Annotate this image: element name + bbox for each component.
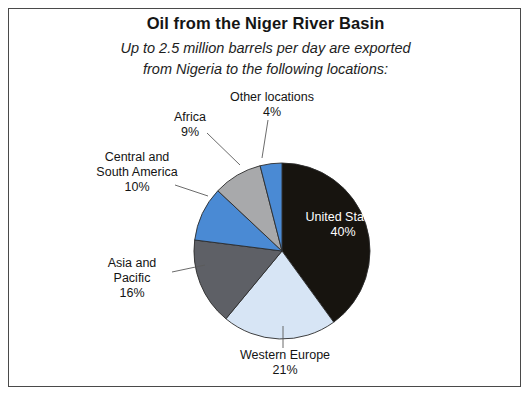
slice-label-central-south-america-line-2: South America [78, 165, 196, 180]
slice-label-africa-pct: 9% [150, 125, 230, 140]
slice-label-africa-name: Africa [174, 110, 206, 124]
slice-label-other-locations-pct: 4% [222, 105, 322, 120]
slice-label-asia-pacific-line-2: Pacific [78, 271, 186, 286]
slice-label-asia-pacific-pct: 16% [78, 286, 186, 301]
slice-label-central-south-america: Central and South America 10% [78, 150, 196, 195]
pie-slice-group [194, 163, 370, 339]
slice-label-central-south-america-pct: 10% [78, 180, 196, 195]
leader-line-other-locations [262, 120, 268, 158]
slice-label-western-europe-pct: 21% [200, 363, 370, 378]
figure-container: Oil from the Niger River Basin Up to 2.5… [0, 0, 531, 397]
slice-label-asia-pacific: Asia and Pacific 16% [78, 256, 186, 301]
slice-label-united-states-pct: 40% [288, 225, 398, 240]
slice-label-asia-pacific-line-1: Asia and [108, 256, 157, 270]
slice-label-western-europe: Western Europe 21% [200, 348, 370, 378]
pie-chart [0, 0, 531, 397]
slice-label-other-locations: Other locations 4% [222, 90, 322, 120]
slice-label-africa: Africa 9% [150, 110, 230, 140]
slice-label-united-states-name: United States [305, 210, 380, 224]
slice-label-other-locations-name: Other locations [230, 90, 314, 104]
slice-label-western-europe-name: Western Europe [240, 348, 330, 362]
slice-label-central-south-america-line-1: Central and [105, 150, 170, 164]
slice-label-united-states: United States 40% [288, 210, 398, 240]
